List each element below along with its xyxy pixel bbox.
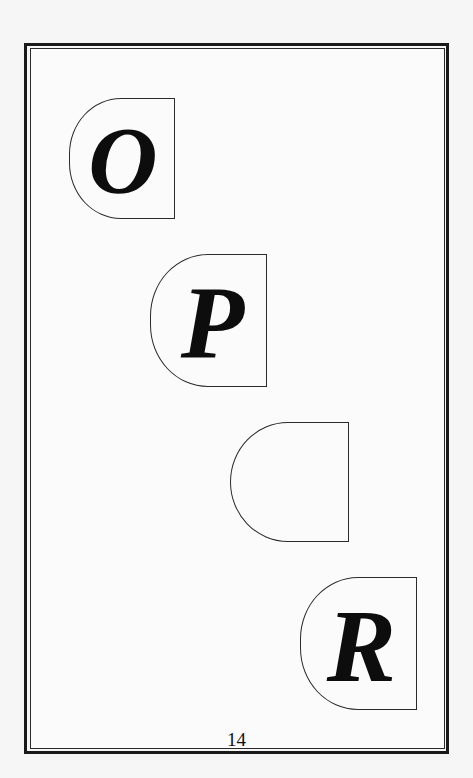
letter-tile-r: R (300, 577, 417, 710)
letter-r: R (327, 594, 396, 698)
letter-p: P (181, 271, 245, 375)
letter-tile-empty (230, 422, 349, 542)
page-number: 14 (0, 729, 473, 751)
letter-tile-p: P (150, 254, 267, 387)
letter-tile-o: O (69, 98, 175, 219)
letter-o: O (88, 113, 157, 209)
